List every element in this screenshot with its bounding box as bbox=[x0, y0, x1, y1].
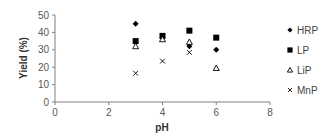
legend: HRPLPLiPMnP bbox=[287, 25, 318, 96]
legend-hrp-marker-icon bbox=[287, 27, 292, 32]
data-point-lip-marker bbox=[213, 65, 219, 70]
legend-label-mnp: MnP bbox=[297, 85, 318, 96]
legend-label-lip: LiP bbox=[297, 65, 312, 76]
data-points bbox=[133, 21, 220, 76]
data-point-lip-marker bbox=[186, 39, 192, 44]
scatter-chart: 0102030405002468 Yield (%) pH HRPLPLiPMn… bbox=[0, 0, 333, 139]
y-axis-title: Yield (%) bbox=[18, 37, 29, 79]
x-tick-label: 0 bbox=[52, 107, 58, 118]
data-point-hrp-marker bbox=[213, 47, 219, 53]
data-point-lip-marker bbox=[133, 43, 139, 48]
data-point-lp-marker bbox=[186, 28, 192, 34]
y-tick-label: 50 bbox=[38, 10, 50, 21]
y-tick-label: 0 bbox=[43, 97, 49, 108]
data-point-mnp-marker bbox=[187, 50, 192, 55]
legend-lip-marker-icon bbox=[287, 67, 292, 72]
y-tick-label: 30 bbox=[38, 44, 50, 55]
legend-lp-marker-icon bbox=[287, 47, 292, 52]
legend-label-lp: LP bbox=[297, 45, 310, 56]
data-point-mnp-marker bbox=[160, 59, 165, 64]
data-point-mnp-marker bbox=[133, 71, 138, 76]
data-point-lp-marker bbox=[213, 35, 219, 41]
axes: 0102030405002468 bbox=[38, 10, 273, 119]
data-point-hrp-marker bbox=[133, 21, 139, 27]
y-tick-label: 20 bbox=[38, 62, 50, 73]
x-tick-label: 4 bbox=[160, 107, 166, 118]
x-tick-label: 8 bbox=[267, 107, 273, 118]
legend-label-hrp: HRP bbox=[297, 25, 318, 36]
y-tick-label: 40 bbox=[38, 27, 50, 38]
y-tick-label: 10 bbox=[38, 79, 50, 90]
x-tick-label: 2 bbox=[106, 107, 112, 118]
legend-mnp-marker-icon bbox=[288, 88, 292, 92]
x-axis-title: pH bbox=[155, 122, 168, 133]
x-tick-label: 6 bbox=[213, 107, 219, 118]
